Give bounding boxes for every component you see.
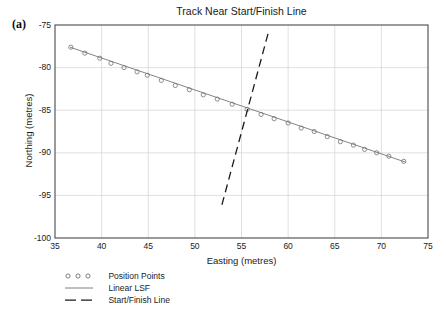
chart-legend: Position Points Linear LSF Start/Finish … (62, 269, 170, 305)
x-tick-label: 70 (368, 241, 394, 251)
x-tick-label: 60 (275, 241, 301, 251)
solid-line-icon (62, 282, 100, 294)
y-tick-label: -85 (25, 105, 51, 115)
figure-container: (a) Track Near Start/Finish Line Northin… (0, 0, 446, 317)
dashed-line-icon (62, 294, 100, 306)
y-tick-label: -80 (25, 62, 51, 72)
x-tick-label: 35 (42, 241, 68, 251)
x-tick-label: 75 (415, 241, 441, 251)
x-tick-label: 50 (182, 241, 208, 251)
legend-item-position-points: Position Points (62, 269, 170, 281)
y-tick-label: -75 (25, 20, 51, 30)
x-tick-label: 40 (89, 241, 115, 251)
legend-label: Linear LSF (104, 282, 150, 294)
series-line-start-finish-line (222, 32, 269, 205)
x-tick-label: 45 (135, 241, 161, 251)
y-tick-label: -95 (25, 190, 51, 200)
legend-item-linear-lsf: Linear LSF (62, 281, 170, 293)
legend-item-start-finish-line: Start/Finish Line (62, 293, 170, 305)
open-circle-marker-icon (62, 270, 100, 282)
series-line-linear-lsf (70, 47, 406, 162)
legend-label: Start/Finish Line (104, 294, 169, 306)
y-tick-label: -90 (25, 147, 51, 157)
x-tick-label: 55 (229, 241, 255, 251)
x-tick-label: 65 (322, 241, 348, 251)
legend-label: Position Points (104, 270, 164, 282)
